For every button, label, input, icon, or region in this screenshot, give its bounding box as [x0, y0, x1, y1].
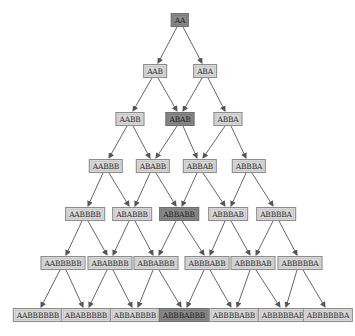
- tree-node: ABBBABB: [185, 256, 230, 270]
- edge-arrow: [187, 270, 204, 307]
- edge-arrow: [133, 126, 150, 158]
- tree-node: ABBBBBBA: [303, 308, 353, 322]
- edge-arrow: [303, 270, 325, 307]
- tree-node: AABBBBBB: [13, 308, 63, 322]
- tree-node: ABBBBAB: [231, 256, 276, 270]
- edge-arrow: [138, 270, 153, 307]
- tree-node: ABA: [193, 64, 217, 78]
- edge-arrow: [113, 270, 132, 307]
- edge-arrow: [109, 173, 129, 206]
- tree-node: ABBABBBB: [110, 308, 160, 322]
- tree-node: ABABBBBB: [61, 308, 111, 322]
- tree-node: ABBBA: [232, 159, 266, 173]
- tree-node: ABBBABBB: [159, 308, 209, 322]
- tree-node: ABBAB: [183, 159, 217, 173]
- edge-arrow: [231, 126, 246, 158]
- edge-arrow: [279, 221, 297, 255]
- edge-arrow: [66, 270, 83, 307]
- edge-arrow: [210, 270, 231, 307]
- edge-arrow: [231, 221, 250, 255]
- tree-node: AA: [171, 13, 189, 27]
- edge-arrow: [156, 173, 176, 206]
- edge-arrow: [88, 221, 107, 255]
- tree-node: AABBBB: [65, 207, 105, 221]
- tree-node: ABBBBBAB: [258, 308, 308, 322]
- edge-arrow: [203, 173, 225, 206]
- tree-node: ABBABBB: [134, 256, 179, 270]
- tree-node: ABAB: [165, 112, 194, 126]
- edge-arrow: [183, 27, 202, 63]
- edge-arrow: [256, 270, 280, 307]
- edge-arrow: [66, 221, 82, 255]
- edge-arrow: [159, 270, 181, 307]
- edge-arrow: [182, 221, 204, 255]
- edge-arrow: [286, 270, 297, 307]
- edge-arrow: [113, 221, 129, 255]
- tree-node: ABBABB: [159, 207, 199, 221]
- edge-arrow: [135, 173, 150, 206]
- tree-diagram: AAAABABAAABBABABABBAAABBBABABBABBABABBBA…: [0, 0, 355, 336]
- tree-node: AABBBBB: [41, 256, 86, 270]
- edge-arrow: [183, 126, 197, 158]
- tree-node: AABBB: [89, 159, 123, 173]
- tree-node: ABABBB: [112, 207, 152, 221]
- edge-arrow: [89, 270, 107, 307]
- edge-arrow: [41, 270, 60, 307]
- tree-node: ABABB: [136, 159, 170, 173]
- edge-layer: [0, 0, 355, 336]
- tree-node: ABBBAB: [208, 207, 248, 221]
- edge-arrow: [231, 173, 246, 206]
- tree-node: AABB: [115, 112, 144, 126]
- tree-node: ABBA: [213, 112, 242, 126]
- tree-node: AAB: [143, 64, 167, 78]
- edge-arrow: [182, 173, 197, 206]
- edge-arrow: [88, 173, 103, 206]
- edge-arrow: [208, 78, 225, 111]
- edge-arrow: [109, 126, 127, 158]
- tree-node: ABBBBBA: [278, 256, 323, 270]
- edge-arrow: [210, 221, 225, 255]
- edge-arrow: [237, 270, 250, 307]
- edge-arrow: [256, 221, 273, 255]
- edge-arrow: [158, 27, 177, 63]
- edge-arrow: [135, 221, 153, 255]
- edge-arrow: [133, 78, 152, 111]
- edge-arrow: [183, 78, 202, 111]
- tree-node: ABABBBB: [88, 256, 133, 270]
- edge-arrow: [203, 126, 225, 158]
- tree-node: ABBBBABB: [209, 308, 259, 322]
- edge-arrow: [156, 126, 177, 158]
- edge-arrow: [158, 78, 177, 111]
- tree-node: ABBBBA: [256, 207, 296, 221]
- edge-arrow: [159, 221, 176, 255]
- edge-arrow: [252, 173, 273, 206]
